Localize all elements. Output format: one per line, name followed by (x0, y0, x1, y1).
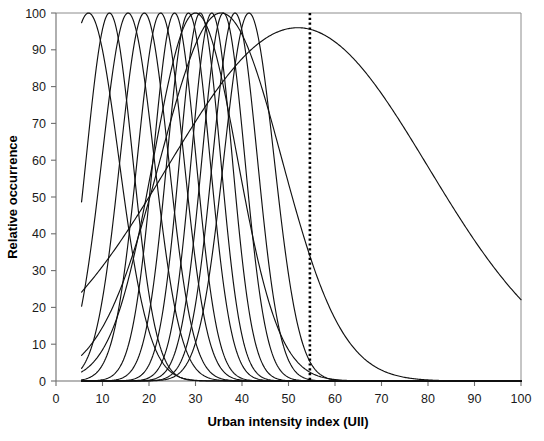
plot-background (56, 13, 521, 381)
y-tick-label: 80 (32, 80, 46, 94)
x-tick-label: 20 (142, 392, 156, 406)
y-tick-label: 50 (32, 191, 46, 205)
y-tick-label: 100 (25, 7, 46, 21)
x-tick-label: 30 (189, 392, 203, 406)
x-tick-label: 90 (468, 392, 482, 406)
x-tick-label: 60 (328, 392, 342, 406)
y-tick-label: 10 (32, 338, 46, 352)
y-tick-label: 0 (39, 375, 46, 389)
x-axis-title: Urban intensity index (UII) (207, 414, 368, 429)
y-tick-label: 20 (32, 301, 46, 315)
chart-figure: 0 10 20 30 40 50 60 70 80 90 100 0 10 20… (0, 0, 544, 441)
y-tick-label: 30 (32, 264, 46, 278)
y-tick-label: 70 (32, 117, 46, 131)
x-tick-label: 40 (235, 392, 249, 406)
x-tick-label: 70 (375, 392, 389, 406)
y-axis-ticks (51, 13, 56, 381)
y-axis-title: Relative occurrence (5, 135, 20, 259)
x-tick-labels: 0 10 20 30 40 50 60 70 80 90 100 (53, 392, 532, 406)
y-tick-label: 40 (32, 227, 46, 241)
response-curves-chart: 0 10 20 30 40 50 60 70 80 90 100 0 10 20… (0, 0, 544, 441)
x-tick-label: 50 (282, 392, 296, 406)
x-tick-label: 100 (511, 392, 532, 406)
y-tick-labels: 0 10 20 30 40 50 60 70 80 90 100 (25, 7, 46, 389)
y-tick-label: 90 (32, 43, 46, 57)
x-axis-ticks (56, 381, 521, 386)
y-tick-label: 60 (32, 154, 46, 168)
x-tick-label: 10 (96, 392, 110, 406)
x-tick-label: 0 (53, 392, 60, 406)
x-tick-label: 80 (421, 392, 435, 406)
